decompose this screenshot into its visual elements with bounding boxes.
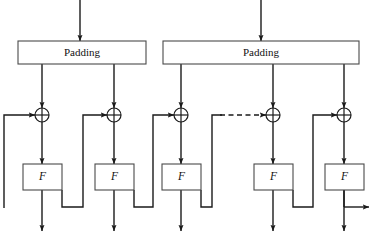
xor-4 [266,108,280,122]
f-output-wires-group [42,190,344,231]
feedback-2-to-3 [134,115,174,207]
f-3-label: F [177,170,186,182]
feedback-4-to-5 [293,115,337,207]
padding-tap-wires-group [42,64,344,108]
input-arrows-group [80,0,261,41]
padding-right-label: Padding [243,46,280,58]
f-5-label: F [340,170,349,182]
xor-3 [174,108,188,122]
feedback-initial-iv [4,115,35,208]
f-1-label: F [38,170,47,182]
feedback-wires-group [4,115,369,208]
xor-5 [337,108,351,122]
xor-2 [107,108,121,122]
padding-left-label: Padding [64,46,101,58]
diagram-canvas: PaddingPadding FFFFF [0,0,373,236]
f-4-label: F [269,170,278,182]
feedback-3-to-gap [201,115,222,207]
feistel-padding-diagram: PaddingPadding FFFFF [0,0,373,236]
xor-to-f-wires-group [42,122,344,164]
padding-blocks-group: PaddingPadding [18,41,359,64]
f-2-label: F [110,170,119,182]
feedback-1-to-2 [62,115,107,207]
xor-1 [35,108,49,122]
